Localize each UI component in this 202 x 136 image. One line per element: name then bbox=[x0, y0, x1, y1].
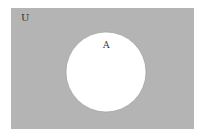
universe-label: U bbox=[21, 12, 29, 23]
venn-diagram: U A bbox=[0, 0, 202, 136]
set-a-label: A bbox=[102, 40, 110, 50]
